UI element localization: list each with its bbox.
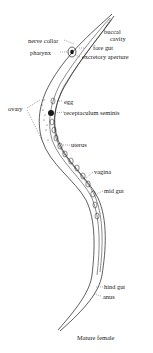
label-ovary: ovary xyxy=(8,105,23,112)
label-hind-gut: hind gut xyxy=(104,283,125,290)
worm-drawing xyxy=(0,0,153,353)
label-anus: anus xyxy=(103,293,115,300)
label-uterus: uterus xyxy=(71,141,87,148)
label-excretory-aperture: excretory aperture xyxy=(82,53,129,60)
label-vagina: vagina xyxy=(94,168,111,175)
figure-caption: Mature female xyxy=(77,334,114,341)
label-receptaculum-seminis: receptaculum seminis xyxy=(64,109,120,116)
label-pharynx: pharynx xyxy=(30,49,51,56)
label-nerve-collar: nerve collar xyxy=(28,37,58,44)
label-buccal-cavity-2: cavity xyxy=(110,35,126,42)
label-mid-gut: mid gut xyxy=(104,187,124,194)
label-egg: egg xyxy=(64,98,73,105)
label-buccal-cavity: buccal xyxy=(104,28,121,35)
label-fore-gut: fore gut xyxy=(93,44,113,51)
nematode-anatomy-figure: buccal cavity nerve collar pharynx fore … xyxy=(0,0,153,353)
